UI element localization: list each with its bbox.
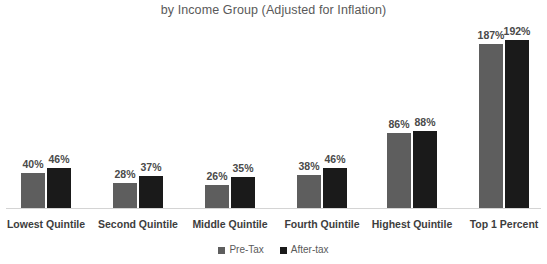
bar-pre-tax-3 xyxy=(205,185,229,208)
bar-after-tax-3 xyxy=(231,177,255,208)
x-axis-line xyxy=(6,208,541,209)
legend-label: After-tax xyxy=(291,244,329,256)
bar-after-tax-2 xyxy=(139,176,163,208)
bar-pre-tax-1 xyxy=(21,173,45,208)
bar-value-after-tax-1: 46% xyxy=(38,153,80,165)
chart-legend: Pre-TaxAfter-tax xyxy=(0,244,547,256)
bar-value-after-tax-6: 192% xyxy=(496,25,538,37)
bar-pre-tax-5 xyxy=(387,133,411,208)
bar-value-after-tax-3: 35% xyxy=(222,162,264,174)
bar-value-after-tax-4: 46% xyxy=(314,153,356,165)
bar-after-tax-6 xyxy=(505,40,529,208)
bar-after-tax-1 xyxy=(47,168,71,208)
bar-pre-tax-6 xyxy=(479,44,503,208)
bar-pre-tax-2 xyxy=(113,183,137,208)
legend-item-2[interactable]: After-tax xyxy=(280,244,329,256)
bar-pre-tax-4 xyxy=(297,175,321,208)
legend-swatch-icon xyxy=(280,247,287,254)
plot-area: 40%46%28%37%26%35%38%46%86%88%187%192% xyxy=(0,0,547,209)
legend-item-1[interactable]: Pre-Tax xyxy=(218,244,263,256)
legend-swatch-icon xyxy=(218,247,225,254)
legend-label: Pre-Tax xyxy=(229,244,263,256)
bar-value-after-tax-5: 88% xyxy=(404,116,446,128)
bar-after-tax-4 xyxy=(323,168,347,208)
bar-value-after-tax-2: 37% xyxy=(130,161,172,173)
category-label-6: Top 1 Percent xyxy=(449,218,547,231)
bar-chart: by Income Group (Adjusted for Inflation)… xyxy=(0,0,547,264)
bar-after-tax-5 xyxy=(413,131,437,208)
